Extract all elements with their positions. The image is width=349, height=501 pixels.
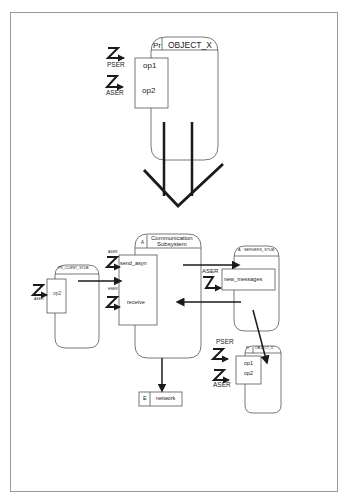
op-label: new_messages [224,277,262,283]
op-label: send_asyn [120,261,147,267]
object-kind-label: Pr [246,347,250,351]
trigger-label: HSER [108,288,118,292]
z-trigger-icon-reversed [203,277,221,288]
object-name-label: OBJECT_X [255,347,273,351]
z-trigger-icon [214,370,229,380]
object-x-bottom [236,346,281,413]
client-stub [47,265,99,348]
diagram-canvas [0,0,349,501]
comm-name-line2: Subsystem [157,241,187,247]
comm-subsystem [119,234,201,358]
trigger-label: PSER [107,62,125,69]
trigger-label: PSER [216,339,234,346]
op-label: op2 [53,291,61,296]
servers-stub-name: SERVERS_STUB [244,249,274,253]
op-label: op1 [244,361,253,367]
z-trigger-icon [107,297,120,307]
network-name-label: network [156,396,175,402]
z-trigger-icon [108,48,124,58]
object-name-label: OBJECT_X [168,41,212,50]
op-label: op2 [142,87,155,95]
trigger-label: ASER [108,251,118,255]
network-kind-label: E [143,396,147,402]
comm-kind-label: A [141,241,144,246]
op-label: op2 [244,371,253,377]
servers-stub-kind: A [238,249,241,253]
z-trigger-icon [107,76,123,87]
client-stub-name: PR_CLIENT_STUB [58,267,89,271]
trigger-label: ASER [213,382,231,389]
op-label: receive [127,300,145,306]
z-trigger-icon [33,285,47,295]
trigger-label: ASER [106,90,124,97]
trigger-label: ASER [34,298,44,302]
z-trigger-icon [213,349,228,359]
servers-stub [222,246,279,331]
trigger-label: ASER [202,268,218,274]
op-label: op1 [143,62,156,70]
object-kind-label: Pr [153,42,161,50]
transform-arrow-icon [144,164,223,206]
z-trigger-icon [107,257,120,267]
